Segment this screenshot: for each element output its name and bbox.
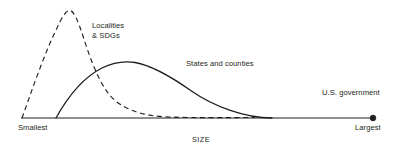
x-axis-label-smallest: Smallest (18, 123, 48, 133)
annotation-localities-line2: & SDGs (92, 31, 124, 41)
annotation-states-and-counties: States and counties (186, 59, 254, 69)
annotation-us-government: U.S. government (322, 88, 380, 98)
us-government-point-marker (370, 115, 376, 121)
x-axis-title: SIZE (192, 135, 210, 145)
curve-states-counties (56, 62, 272, 118)
annotation-localities-sdgs: Localities & SDGs (92, 21, 124, 40)
annotation-localities-line1: Localities (92, 21, 124, 31)
x-axis-label-largest: Largest (355, 123, 381, 133)
distribution-chart-figure: Localities & SDGs States and counties U.… (0, 0, 408, 159)
